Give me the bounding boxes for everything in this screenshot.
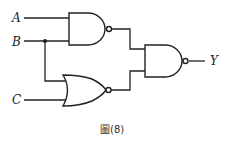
inversion-bubble xyxy=(107,27,112,32)
input-label-c: C xyxy=(12,93,21,107)
nand-gate-3 xyxy=(145,45,188,77)
output-label-y: Y xyxy=(210,54,219,68)
figure-caption: 圖(8) xyxy=(100,124,124,135)
inversion-bubble xyxy=(106,88,111,93)
inversion-bubble xyxy=(183,59,188,64)
junction-dot xyxy=(43,39,47,43)
logic-circuit-diagram: A B C Y 圖(8) xyxy=(0,0,229,141)
nand-gate-1 xyxy=(69,13,112,45)
nor-gate-2 xyxy=(63,75,111,106)
input-label-b: B xyxy=(11,35,21,49)
input-label-a: A xyxy=(11,11,21,25)
